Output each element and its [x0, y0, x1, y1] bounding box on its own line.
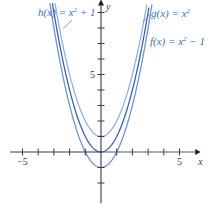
parabola-chart: −555xyh(x) = x2 + 1g(x) = x2f(x) = x2 − …	[0, 0, 215, 210]
y-axis-arrow-icon	[98, 0, 104, 6]
x-axis-label: x	[197, 156, 203, 167]
labels: −555xyh(x) = x2 + 1g(x) = x2f(x) = x2 − …	[17, 1, 205, 167]
x-tick-label: −5	[17, 156, 28, 167]
leader-line	[63, 20, 72, 29]
function-label-f: f(x) = x2 − 1	[150, 35, 205, 48]
axes	[10, 0, 201, 203]
y-axis-label: y	[105, 1, 111, 12]
function-label-h: h(x) = x2 + 1	[38, 6, 95, 19]
function-label-g: g(x) = x2	[151, 7, 191, 20]
x-tick-label: 5	[177, 156, 182, 167]
x-axis-arrow-icon	[195, 149, 200, 155]
y-tick-label: 5	[90, 69, 95, 80]
